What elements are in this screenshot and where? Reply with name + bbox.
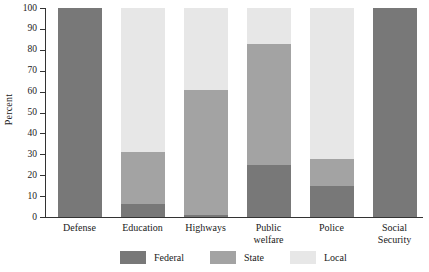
stacked-bar-chart: Percent 0102030405060708090100 DefenseEd… [0,0,429,272]
y-axis-title: Percent [2,0,16,218]
y-axis-tick-label: 90 [28,25,38,35]
y-axis-tick-mark: 90 [40,29,45,30]
legend-label-state: State [244,252,264,263]
y-axis-tick-mark: 70 [40,71,45,72]
y-axis-tick-mark: 20 [40,175,45,176]
bar-segment-local[interactable] [184,8,228,90]
y-axis-tick-mark: 50 [40,113,45,114]
y-axis-tick-mark: 0 [40,217,45,218]
x-axis-label-line: Social [358,222,429,234]
y-axis-tick-label: 80 [28,46,38,56]
y-axis-tick-label: 70 [28,66,38,76]
y-axis-tick-mark: 30 [40,154,45,155]
x-axis-label-social-security: SocialSecurity [358,222,429,245]
legend-swatch-local [290,251,316,264]
bar-segment-federal[interactable] [58,8,102,217]
y-axis-tick-label: 50 [28,108,38,118]
y-axis-tick-label: 100 [23,4,37,14]
bar-segment-federal[interactable] [310,186,354,217]
y-axis-tick-mark: 10 [40,196,45,197]
y-axis-tick-mark: 100 [40,8,45,9]
bar-segment-local[interactable] [121,8,165,152]
legend-item-federal[interactable]: Federal [120,251,184,264]
bar-public-welfare[interactable] [247,8,291,217]
legend-swatch-state [210,251,236,264]
bar-segment-federal[interactable] [373,8,417,217]
bar-segment-federal[interactable] [247,165,291,217]
plot-area: 0102030405060708090100 [45,8,423,218]
y-axis-tick-label: 30 [28,150,38,160]
y-axis-tick-mark: 80 [40,50,45,51]
bar-segment-local[interactable] [310,8,354,158]
chart-legend: FederalStateLocal [120,249,420,265]
bar-police[interactable] [310,8,354,217]
bar-highways[interactable] [184,8,228,217]
y-axis-tick-label: 40 [28,129,38,139]
bar-segment-state[interactable] [247,44,291,165]
bar-segment-state[interactable] [121,152,165,204]
y-axis-line [45,8,46,218]
x-axis-line [45,217,423,218]
y-axis-title-text: Percent [4,93,15,124]
legend-label-federal: Federal [154,252,184,263]
legend-item-state[interactable]: State [210,251,264,264]
bar-defense[interactable] [58,8,102,217]
bar-segment-federal[interactable] [184,215,228,217]
legend-label-local: Local [324,252,347,263]
y-axis-tick-label: 0 [32,213,37,223]
y-axis-tick-mark: 60 [40,92,45,93]
y-axis-tick-mark: 40 [40,133,45,134]
legend-swatch-federal [120,251,146,264]
y-axis-tick-label: 60 [28,87,38,97]
x-axis-label-line: welfare [232,234,306,246]
x-axis-label-line: Security [358,234,429,246]
bar-segment-state[interactable] [184,90,228,215]
y-axis-tick-label: 10 [28,192,38,202]
bar-social-security[interactable] [373,8,417,217]
y-axis-tick-label: 20 [28,171,38,181]
bar-education[interactable] [121,8,165,217]
bar-segment-state[interactable] [310,159,354,186]
legend-item-local[interactable]: Local [290,251,347,264]
bar-segment-federal[interactable] [121,204,165,217]
bar-segment-local[interactable] [247,8,291,44]
